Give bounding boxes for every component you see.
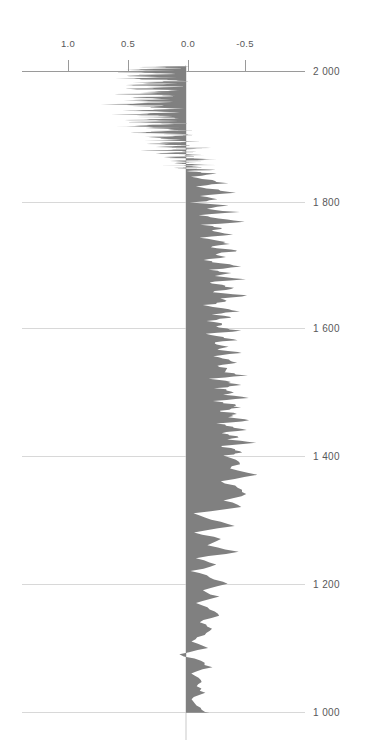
- data-series-area: [101, 66, 258, 713]
- x-tick-label-1.0: 1.0: [61, 38, 75, 49]
- y-tick-label-1400: 1 400: [313, 451, 340, 462]
- y-tick-label-1200: 1 200: [313, 579, 340, 590]
- x-tick-label-0.0: 0.0: [181, 38, 195, 49]
- y-tick-label-1600: 1 600: [313, 323, 340, 334]
- chart-plot-area: [0, 0, 367, 744]
- y-tick-label-2000: 2 000: [313, 66, 340, 77]
- x-tick-label-0.5: 0.5: [121, 38, 135, 49]
- y-tick-label-1000: 1 000: [313, 707, 340, 718]
- chart-container: 1.00.50.0-0.5 2 0001 8001 6001 4001 2001…: [0, 0, 367, 744]
- x-tick-label--0.5: -0.5: [236, 38, 254, 49]
- y-tick-label-1800: 1 800: [313, 197, 340, 208]
- gridlines-group: [22, 72, 305, 713]
